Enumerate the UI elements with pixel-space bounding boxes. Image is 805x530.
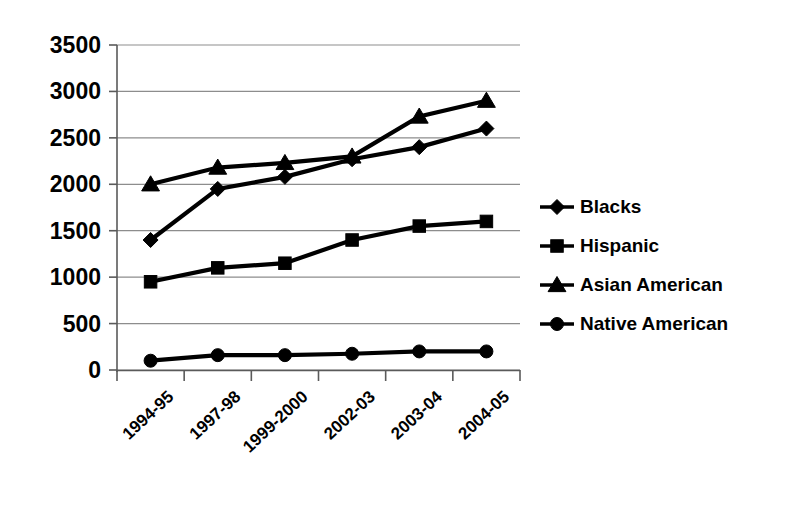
y-axis-tick-label: 1000 <box>50 264 101 290</box>
data-point-marker <box>144 354 157 367</box>
legend-label: Asian American <box>580 274 723 295</box>
data-point-marker <box>211 349 224 362</box>
chart-background <box>0 0 805 530</box>
y-axis-tick-label: 2000 <box>50 171 101 197</box>
data-point-marker <box>413 220 426 233</box>
y-axis-tick-label: 0 <box>88 357 101 383</box>
data-point-marker <box>212 262 225 275</box>
legend-label: Blacks <box>580 196 641 217</box>
data-point-marker <box>551 240 564 253</box>
y-axis-tick-label: 1500 <box>50 218 101 244</box>
line-chart: 0500100015002000250030003500 1994-951997… <box>0 0 805 530</box>
y-axis-tick-label: 2500 <box>50 125 101 151</box>
data-point-marker <box>346 234 359 247</box>
data-point-marker <box>480 215 493 228</box>
y-axis-tick-label: 3000 <box>50 78 101 104</box>
y-axis-tick-label: 500 <box>63 311 101 337</box>
data-point-marker <box>413 345 426 358</box>
y-axis-tick-label: 3500 <box>50 32 101 58</box>
data-point-marker <box>480 345 493 358</box>
data-point-marker <box>144 276 157 289</box>
chart-canvas: 0500100015002000250030003500 1994-951997… <box>0 0 805 530</box>
legend-label: Hispanic <box>580 235 660 256</box>
legend-label: Native American <box>580 313 728 334</box>
data-point-marker <box>278 349 291 362</box>
data-point-marker <box>279 257 292 270</box>
data-point-marker <box>346 347 359 360</box>
data-point-marker <box>551 318 564 331</box>
